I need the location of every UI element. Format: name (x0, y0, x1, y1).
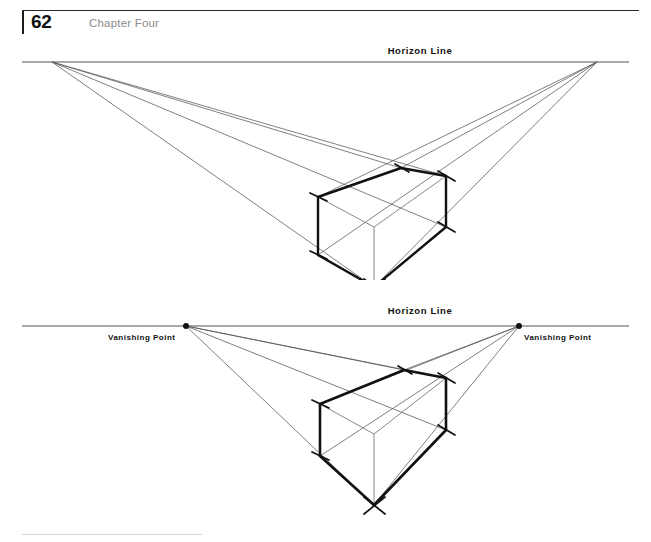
convergence-lines-right (318, 62, 597, 280)
header-rule (22, 10, 639, 11)
vanishing-point-right-dot (516, 323, 522, 329)
box-interior-edges (318, 176, 446, 280)
convergence-lines-right (320, 326, 519, 505)
diagram-upper-two-point-perspective: Horizon Line (0, 40, 651, 280)
convergence-lines-left (52, 62, 446, 280)
page-number: 62 (31, 11, 52, 33)
horizon-line-label: Horizon Line (388, 305, 453, 316)
horizon-line-label: Horizon Line (388, 45, 453, 56)
corner-tick-marks (312, 366, 455, 514)
convergence-lines-left (186, 326, 446, 505)
vanishing-point-left-dot (183, 323, 189, 329)
box-outline (320, 370, 446, 505)
diagram-lower-two-point-perspective: Horizon Line Vanishing Point Vanishing P… (0, 300, 651, 532)
vanishing-point-label-left: Vanishing Point (108, 333, 176, 342)
chapter-label: Chapter Four (89, 16, 159, 30)
book-page: 62 Chapter Four (0, 0, 651, 542)
vanishing-point-label-right: Vanishing Point (524, 333, 592, 342)
box-outline (318, 168, 446, 280)
footer-rule (22, 534, 202, 535)
header-vertical-rule (22, 11, 24, 34)
